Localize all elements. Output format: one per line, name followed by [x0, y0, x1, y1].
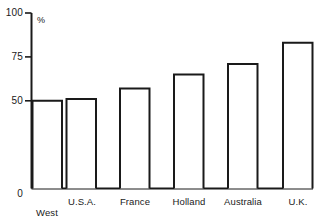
bar-holland: [174, 74, 204, 188]
y-axis-unit-label: %: [37, 16, 45, 25]
bar-uk: [283, 43, 313, 189]
x-label-usa: U.S.A.: [52, 196, 112, 207]
x-label-west-germany-line1: West: [36, 207, 58, 218]
x-label-uk: U.K.: [268, 196, 317, 207]
bar-chart: 100 75 50 0 % West Germany U.S.A. France…: [0, 0, 317, 219]
y-tick-label-75: 75: [0, 52, 23, 62]
bar-usa: [67, 99, 97, 189]
x-label-france: France: [105, 196, 165, 207]
bar-australia: [228, 64, 258, 189]
x-label-australia: Australia: [213, 196, 273, 207]
bar-series: [33, 43, 313, 189]
y-tick-label-50: 50: [0, 96, 23, 106]
y-tick-label-100: 100: [0, 8, 23, 18]
bar-france: [120, 89, 150, 189]
x-label-holland: Holland: [159, 196, 219, 207]
bar-west-germany: [33, 101, 63, 189]
chart-canvas: [0, 0, 317, 219]
